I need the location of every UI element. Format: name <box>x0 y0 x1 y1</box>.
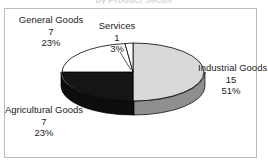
pie-label-services-percent: 3% <box>86 43 148 55</box>
pie-label-agricultural-goods-value: 7 <box>2 116 86 128</box>
pie-label-industrial-goods-name: Industrial Goods <box>198 62 264 74</box>
pie-label-agricultural-goods: Agricultural Goods 7 23% <box>2 104 86 139</box>
pie-label-general-goods: General Goods 7 23% <box>12 14 90 49</box>
pie-label-services-name: Services <box>86 20 148 32</box>
pie-label-agricultural-goods-percent: 23% <box>2 127 86 139</box>
pie-label-general-goods-name: General Goods <box>12 14 90 26</box>
pie-label-industrial-goods-value: 15 <box>198 74 264 86</box>
pie-label-services: Services 1 3% <box>86 20 148 55</box>
pie-label-general-goods-value: 7 <box>12 26 90 38</box>
pie-label-services-value: 1 <box>86 32 148 44</box>
pie-chart-figure: by Product Sector General Go <box>0 0 268 166</box>
pie-label-industrial-goods: Industrial Goods 15 51% <box>198 62 264 97</box>
pie-label-industrial-goods-percent: 51% <box>198 85 264 97</box>
pie-label-agricultural-goods-name: Agricultural Goods <box>2 104 86 116</box>
pie-label-general-goods-percent: 23% <box>12 37 90 49</box>
